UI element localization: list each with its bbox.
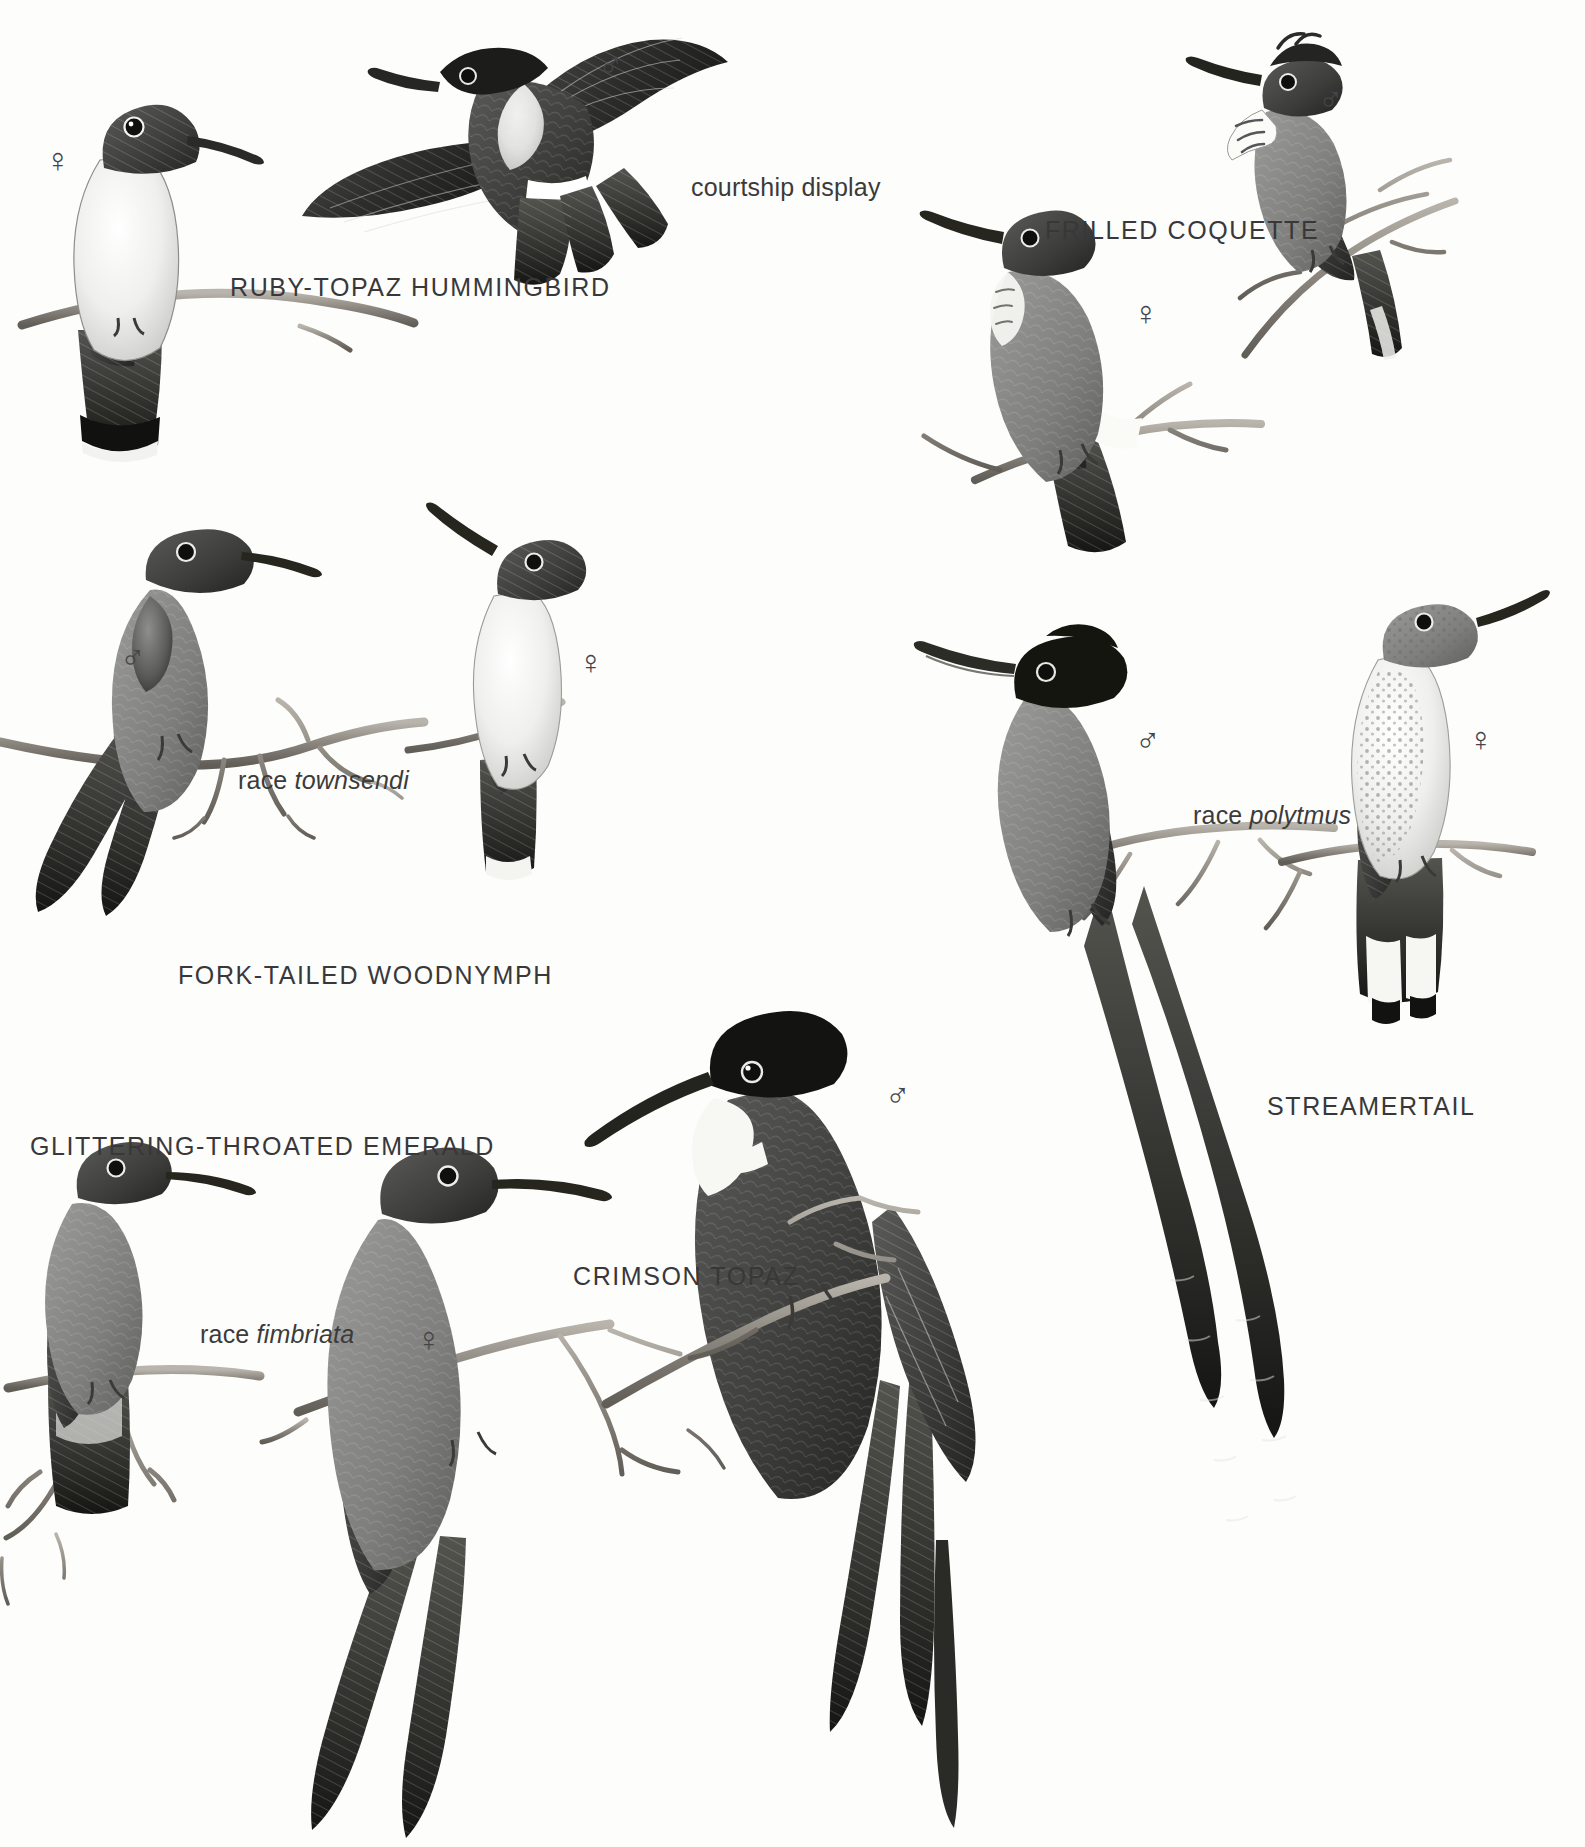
figure-streamertail-male (914, 624, 1334, 1520)
figure-fork-tailed-woodnymph-female (408, 502, 586, 880)
race-word: race (200, 1320, 257, 1348)
figure-fork-tailed-woodnymph-male (0, 529, 424, 916)
race-name-italic: polytmus (1250, 801, 1352, 829)
sex-symbol-female-crimson-topaz: ♀ (416, 1322, 442, 1356)
figure-crimson-topaz-female (262, 1148, 760, 1838)
sex-symbol-female-fork-tailed-woodnymph: ♀ (578, 645, 604, 679)
illustration-plate: RUBY-TOPAZ HUMMINGBIRD ♀ ♂ courtship dis… (0, 0, 1585, 1847)
figure-glittering-throated-emerald (2, 1142, 260, 1604)
species-label-crimson-topaz: CRIMSON TOPAZ (573, 1264, 799, 1289)
race-word: race (238, 766, 295, 794)
figure-crimson-topaz-male (584, 1011, 975, 1828)
species-label-streamertail: STREAMERTAIL (1267, 1094, 1476, 1119)
sex-symbol-male-streamertail: ♂ (1135, 723, 1161, 757)
annotation-courtship-display: courtship display (691, 175, 881, 200)
species-label-glittering-throated-emerald: GLITTERING-THROATED EMERALD (30, 1134, 495, 1159)
sex-symbol-female-frilled-coquette: ♀ (1133, 296, 1159, 330)
sex-symbol-male-ruby-topaz: ♂ (598, 48, 624, 82)
figure-ruby-topaz-male-display (302, 38, 728, 285)
species-label-ruby-topaz-hummingbird: RUBY-TOPAZ HUMMINGBIRD (230, 275, 611, 300)
sex-symbol-female-streamertail: ♀ (1468, 722, 1494, 756)
race-name-italic: fimbriata (257, 1320, 355, 1348)
race-word: race (1193, 801, 1250, 829)
sex-symbol-female-ruby-topaz: ♀ (45, 143, 71, 177)
race-label-fimbriata: race fimbriata (200, 1322, 354, 1347)
race-label-townsendi: race townsendi (238, 768, 409, 793)
sex-symbol-male-fork-tailed-woodnymph: ♂ (120, 640, 146, 674)
race-name-italic: townsendi (295, 766, 409, 794)
species-label-frilled-coquette: FRILLED COQUETTE (1045, 218, 1319, 243)
sex-symbol-male-crimson-topaz: ♂ (885, 1078, 911, 1112)
sex-symbol-male-frilled-coquette: ♂ (1318, 82, 1344, 116)
figure-frilled-coquette-female (920, 210, 1261, 552)
species-label-fork-tailed-woodnymph: FORK-TAILED WOODNYMPH (178, 963, 553, 988)
race-label-polytmus: race polytmus (1193, 803, 1351, 828)
